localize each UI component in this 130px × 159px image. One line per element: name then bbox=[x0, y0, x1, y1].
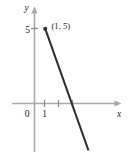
y-axis-label: y bbox=[23, 3, 29, 13]
point-annotation-label: (1, 5) bbox=[52, 21, 71, 31]
x-tick-label-1: 1 bbox=[42, 109, 47, 119]
data-point-marker bbox=[43, 27, 47, 31]
chart-canvas: y x 5 0 1 (1, 5) bbox=[0, 0, 130, 159]
y-tick-label-5: 5 bbox=[25, 25, 30, 35]
x-axis-label: x bbox=[116, 109, 122, 119]
coordinate-plane-figure: y x 5 0 1 (1, 5) bbox=[0, 0, 130, 159]
y-axis-arrow-icon bbox=[31, 7, 37, 14]
x-axis-arrow-icon bbox=[115, 100, 122, 106]
origin-label: 0 bbox=[25, 109, 30, 119]
data-series-line bbox=[46, 30, 89, 151]
